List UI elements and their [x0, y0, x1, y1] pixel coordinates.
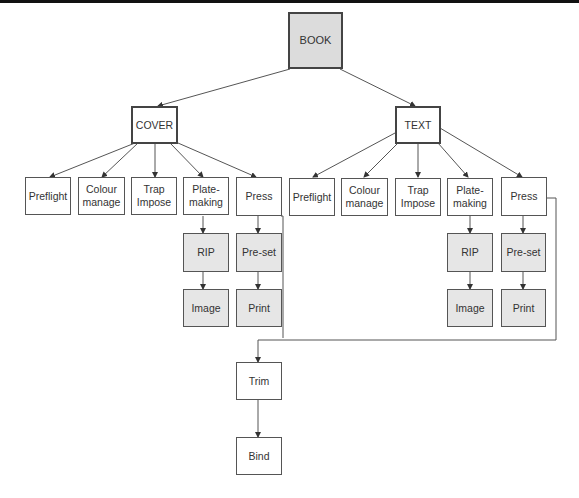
node-trim: Trim [236, 362, 282, 400]
node-text-rip: RIP [447, 233, 493, 272]
node-text-pre-set: Pre-set [501, 233, 546, 272]
node-text: TEXT [395, 106, 441, 144]
node-cover-image: Image [183, 289, 229, 327]
node-text-image: Image [447, 289, 493, 327]
node-cover-print: Print [236, 289, 282, 327]
node-text-print: Print [501, 289, 546, 327]
node-cover-trap-impose: Trap Impose [131, 177, 177, 215]
node-cover-rip: RIP [183, 233, 229, 272]
node-book: BOOK [288, 12, 343, 69]
node-cover-plate-making: Plate- making [183, 177, 229, 215]
node-cover-colour-manage: Colour manage [78, 177, 125, 215]
node-text-press: Press [501, 177, 547, 216]
node-text-plate-making: Plate- making [447, 178, 493, 216]
node-text-colour-manage: Colour manage [341, 178, 388, 216]
node-cover-preflight: Preflight [25, 177, 71, 215]
node-text-trap-impose: Trap Impose [395, 178, 441, 216]
node-cover-press: Press [236, 177, 282, 216]
node-text-preflight: Preflight [289, 178, 335, 216]
node-bind: Bind [236, 437, 282, 475]
node-cover-pre-set: Pre-set [236, 233, 282, 272]
node-cover: COVER [131, 106, 178, 144]
